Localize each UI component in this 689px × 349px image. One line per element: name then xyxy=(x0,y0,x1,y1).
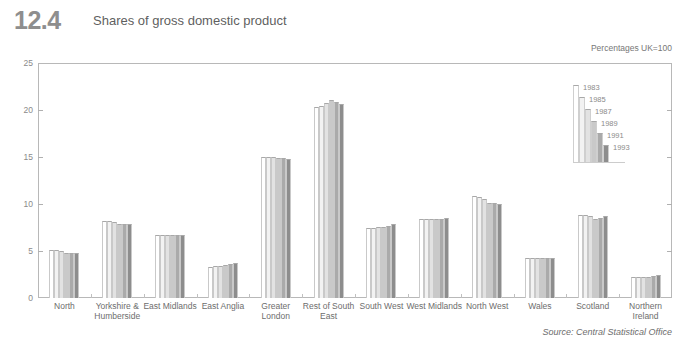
bar xyxy=(656,275,661,298)
bar xyxy=(603,216,608,298)
legend-baseline xyxy=(573,162,625,163)
bar xyxy=(444,218,449,298)
legend-label: 1983 xyxy=(583,83,600,92)
bar-group xyxy=(38,63,91,298)
bar-group xyxy=(91,63,144,298)
bar-group xyxy=(514,63,567,298)
category-separator xyxy=(302,294,303,298)
bar-group xyxy=(302,63,355,298)
bar-group xyxy=(249,63,302,298)
legend-label: 1985 xyxy=(589,95,606,104)
y-axis-tick-label: 5 xyxy=(13,246,33,256)
bar-group xyxy=(408,63,461,298)
bar-group xyxy=(355,63,408,298)
category-separator xyxy=(566,294,567,298)
bar xyxy=(127,224,132,298)
chart-legend: 198319851987198919911993 xyxy=(573,85,668,163)
bar xyxy=(74,253,79,298)
category-separator xyxy=(619,294,620,298)
chart-title: Shares of gross domestic product xyxy=(93,14,287,27)
category-separator xyxy=(514,294,515,298)
category-separator xyxy=(144,294,145,298)
figure-number: 12.4 xyxy=(14,8,61,33)
bar xyxy=(550,258,555,298)
bar-group xyxy=(144,63,197,298)
units-label: Percentages UK=100 xyxy=(591,43,672,53)
legend-label: 1989 xyxy=(601,119,618,128)
bar xyxy=(233,263,238,298)
legend-label: 1993 xyxy=(613,143,630,152)
category-separator xyxy=(461,294,462,298)
category-separator xyxy=(197,294,198,298)
legend-label: 1987 xyxy=(595,107,612,116)
x-axis-label: NorthernIreland xyxy=(610,301,682,321)
y-axis-tick-label: 20 xyxy=(13,105,33,115)
category-separator xyxy=(91,294,92,298)
y-axis-tick-label: 10 xyxy=(13,199,33,209)
y-axis-tick-label: 25 xyxy=(13,58,33,68)
bar xyxy=(497,204,502,298)
x-axis-labels: NorthYorkshire &HumbersideEast MidlandsE… xyxy=(38,301,672,345)
legend-swatch xyxy=(603,145,609,163)
bar-group xyxy=(197,63,250,298)
bar xyxy=(286,159,291,298)
category-separator xyxy=(408,294,409,298)
bar xyxy=(180,235,185,298)
legend-label: 1991 xyxy=(607,131,624,140)
category-separator xyxy=(249,294,250,298)
bar-group xyxy=(461,63,514,298)
bar xyxy=(391,224,396,298)
y-axis-tick-label: 15 xyxy=(13,152,33,162)
bar xyxy=(339,104,344,298)
category-separator xyxy=(355,294,356,298)
